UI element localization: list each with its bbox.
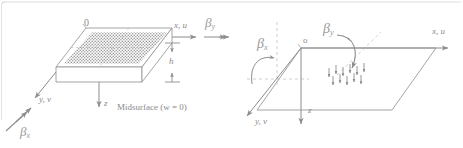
left-thickness-label: h (169, 57, 174, 66)
right-rotation-beta-x: βx (257, 37, 268, 52)
midsurface-caption: Midsurface (w = 0) (117, 103, 187, 112)
right-axis-z-label: z (308, 106, 312, 115)
left-rotation-beta-x: βx (20, 125, 30, 140)
left-beta-y-subscript: y (211, 22, 214, 31)
right-axis-y-label: y, v (255, 117, 267, 126)
right-origin-label: o (303, 36, 308, 45)
left-origin-label: 0 (84, 18, 89, 28)
figure-canvas: 0 x, u y, v z h Midsurface (w = 0) βy βx… (0, 0, 463, 148)
left-plate-body (56, 28, 172, 82)
left-axis-z-label: z (104, 99, 108, 108)
right-beta-y-symbol: β (323, 21, 330, 36)
diagram-vector-layer (0, 0, 463, 148)
right-beta-x-subscript: x (264, 43, 268, 52)
right-rotation-beta-y: βy (323, 22, 334, 37)
right-beta-x-symbol: β (257, 36, 264, 51)
left-beta-x-subscript: x (26, 131, 29, 140)
left-rotation-beta-y: βy (205, 16, 215, 31)
left-axis-y-label: y, v (39, 95, 51, 104)
left-axis-x-label: x, u (174, 21, 187, 30)
right-beta-y-subscript: y (330, 28, 334, 37)
right-axis-x-label: x, u (432, 27, 445, 36)
